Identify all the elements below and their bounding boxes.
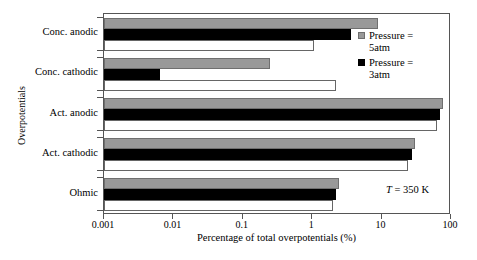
- legend-label-line1: Pressure =: [369, 57, 413, 68]
- annotation-value: = 350 K: [392, 184, 429, 195]
- bar-act-anodic-series-3: [104, 120, 437, 131]
- x-tick-label: 10: [351, 219, 411, 230]
- x-tick-label: 100: [420, 219, 477, 230]
- bar-conc-cathodic-series-2: [104, 69, 160, 80]
- legend-label-line2: 3atm: [369, 69, 413, 81]
- bar-act-anodic-series-2: [104, 109, 440, 120]
- chart-figure: Overpotentials Conc. anodicConc. cathodi…: [0, 0, 477, 260]
- x-tick-label: 0.1: [212, 219, 272, 230]
- black-square-swatch: [358, 59, 365, 66]
- legend-entry: Pressure =3atm: [358, 57, 413, 80]
- bar-conc-anodic-series-3: [104, 40, 314, 51]
- x-tick-label: 0.001: [73, 219, 133, 230]
- bar-ohmic-series-3: [104, 200, 333, 211]
- legend-entry: Pressure =5atm: [358, 30, 413, 53]
- bar-act-cathodic-series-1: [104, 138, 415, 149]
- y-tick-label: Ohmic: [0, 187, 98, 198]
- gray-square-swatch: [358, 32, 365, 39]
- y-tick-label: Act. anodic: [0, 107, 98, 118]
- y-tick-label: Conc. anodic: [0, 26, 98, 37]
- legend-label-line2: 5atm: [369, 42, 413, 54]
- x-tick-label: 0.01: [142, 219, 202, 230]
- bar-conc-anodic-series-2: [104, 29, 351, 40]
- bar-ohmic-series-1: [104, 178, 339, 189]
- x-axis-title: Percentage of total overpotentials (%): [103, 232, 450, 243]
- temperature-annotation: T = 350 K: [386, 184, 429, 195]
- y-tick-label: Act. cathodic: [0, 147, 98, 158]
- legend-label-line1: Pressure =: [369, 30, 413, 41]
- bar-conc-cathodic-series-3: [104, 80, 336, 91]
- bar-conc-anodic-series-1: [104, 18, 378, 29]
- bar-conc-cathodic-series-1: [104, 58, 270, 69]
- bar-act-cathodic-series-2: [104, 149, 412, 160]
- bar-act-cathodic-series-3: [104, 160, 408, 171]
- legend: Pressure =5atmPressure =3atm: [358, 30, 413, 84]
- bar-act-anodic-series-1: [104, 98, 443, 109]
- x-tick-label: 1: [281, 219, 341, 230]
- y-tick-label: Conc. cathodic: [0, 66, 98, 77]
- bar-ohmic-series-2: [104, 189, 336, 200]
